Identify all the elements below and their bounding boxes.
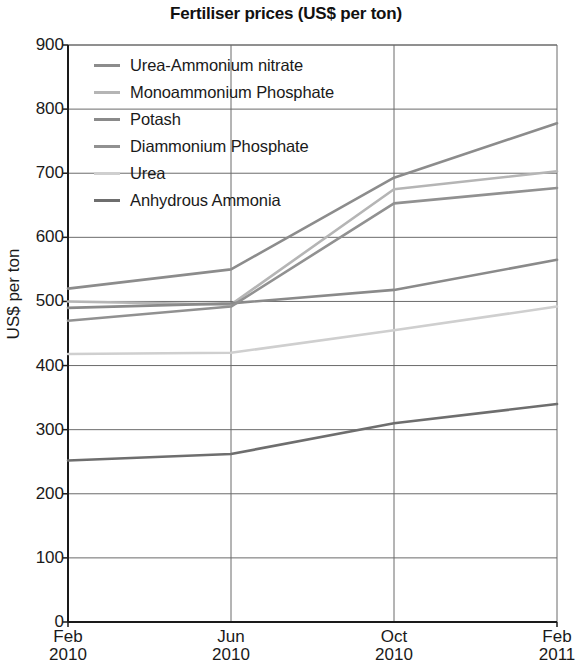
legend-item-urea: Urea	[94, 160, 354, 187]
legend-swatch-diammonium-phosphate	[94, 145, 120, 148]
x-axis-tick-month: Oct	[349, 628, 439, 646]
legend-label-monoammonium-phosphate: Monoammonium Phosphate	[130, 83, 334, 102]
legend-swatch-potash	[94, 118, 120, 121]
x-axis-tick-label: Feb2010	[23, 628, 113, 662]
legend-item-diammonium-phosphate: Diammonium Phosphate	[94, 133, 354, 160]
x-axis-tick-month: Jun	[186, 628, 276, 646]
legend-label-urea-ammonium-nitrate: Urea-Ammonium nitrate	[130, 56, 303, 75]
legend-label-urea: Urea	[130, 164, 165, 183]
x-axis-tick-month: Feb	[512, 628, 580, 646]
series-line-anhydrous-ammonia	[68, 404, 557, 460]
legend-swatch-anhydrous-ammonia	[94, 199, 120, 202]
legend-label-anhydrous-ammonia: Anhydrous Ammonia	[130, 191, 281, 210]
chart-legend: Urea-Ammonium nitrate Monoammonium Phosp…	[94, 52, 354, 214]
x-axis-tick-year: 2011	[512, 646, 580, 662]
legend-swatch-monoammonium-phosphate	[94, 91, 120, 94]
legend-label-potash: Potash	[130, 110, 181, 129]
legend-item-urea-ammonium-nitrate: Urea-Ammonium nitrate	[94, 52, 354, 79]
legend-item-anhydrous-ammonia: Anhydrous Ammonia	[94, 187, 354, 214]
x-axis-tick-year: 2010	[23, 646, 113, 662]
legend-label-diammonium-phosphate: Diammonium Phosphate	[130, 137, 309, 156]
series-line-potash	[68, 260, 557, 308]
x-axis-tick-label: Jun2010	[186, 628, 276, 662]
x-axis-tick-month: Feb	[23, 628, 113, 646]
legend-item-monoammonium-phosphate: Monoammonium Phosphate	[94, 79, 354, 106]
legend-item-potash: Potash	[94, 106, 354, 133]
legend-swatch-urea-ammonium-nitrate	[94, 64, 120, 67]
x-axis-tick-year: 2010	[349, 646, 439, 662]
x-axis-tick-label: Oct2010	[349, 628, 439, 662]
x-axis-tick-label: Feb2011	[512, 628, 580, 662]
x-axis-tick-year: 2010	[186, 646, 276, 662]
legend-swatch-urea	[94, 172, 120, 175]
